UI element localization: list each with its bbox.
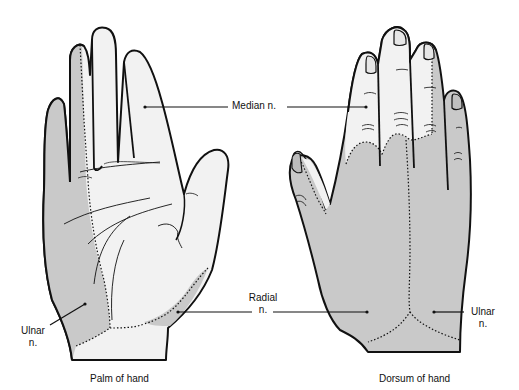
ulnar-nerve-label-dorsum-line1: Ulnar: [466, 306, 500, 318]
radial-nerve-label-line2: n.: [246, 304, 280, 316]
palm-hand-figure: [43, 28, 228, 361]
ulnar-nerve-label-dorsum-line2: n.: [466, 318, 500, 330]
ulnar-nerve-label-palm: Ulnar n.: [16, 325, 50, 349]
radial-nerve-label: Radial n.: [246, 292, 280, 316]
radial-nerve-label-line1: Radial: [246, 292, 280, 304]
palm-caption: Palm of hand: [90, 373, 149, 384]
ulnar-nerve-label-dorsum: Ulnar n.: [466, 306, 500, 330]
nerve-distribution-diagram: Median n. Radial n. Ulnar n. Ulnar n. Pa…: [0, 0, 519, 390]
median-nerve-label: Median n.: [232, 100, 276, 112]
ulnar-nerve-label-palm-line2: n.: [16, 337, 50, 349]
ulnar-nerve-label-palm-line1: Ulnar: [16, 325, 50, 337]
hands-illustration: [0, 0, 519, 390]
dorsum-caption: Dorsum of hand: [379, 373, 450, 384]
dorsum-hand-figure: [290, 27, 471, 352]
